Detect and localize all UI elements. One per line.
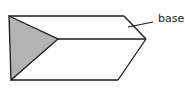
base-top-edge bbox=[124, 16, 146, 39]
base-label: base bbox=[158, 12, 184, 25]
shaded-triangle-face bbox=[9, 16, 58, 80]
base-bottom-edge bbox=[118, 39, 146, 80]
prism-diagram: base bbox=[0, 0, 185, 89]
